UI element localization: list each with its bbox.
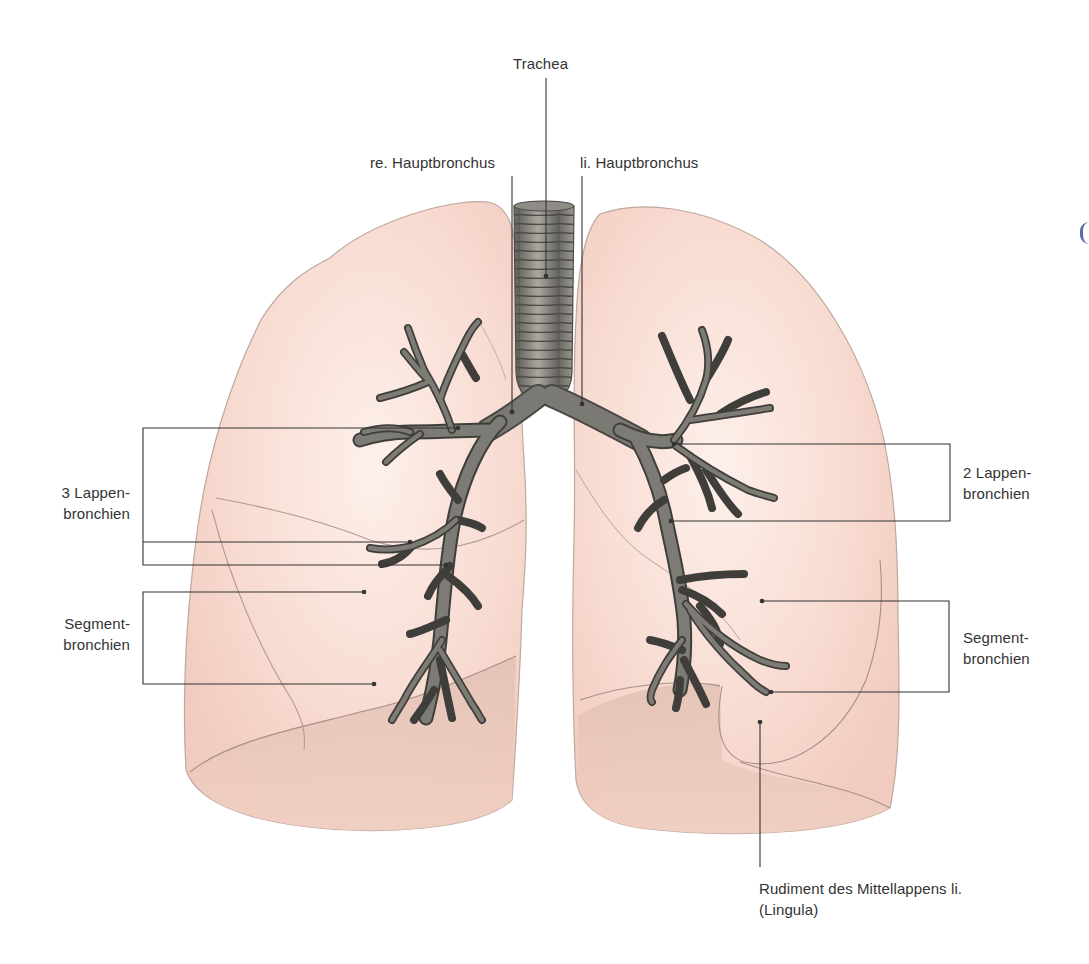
label-lingula-line2: (Lingula) <box>759 899 962 920</box>
label-right-lobar-bronchi-line1: 3 Lappen- <box>50 482 130 503</box>
label-right-main-bronchus: re. Hauptbronchus <box>370 152 495 173</box>
label-left-segmental-bronchi: Segment- bronchien <box>963 627 1030 669</box>
label-right-segmental-bronchi: Segment- bronchien <box>50 613 130 655</box>
label-left-lobar-bronchi: 2 Lappen- bronchien <box>963 462 1031 504</box>
label-left-segmental-bronchi-line1: Segment- <box>963 627 1030 648</box>
label-right-segmental-bronchi-line2: bronchien <box>50 634 130 655</box>
label-right-segmental-bronchi-line1: Segment- <box>50 613 130 634</box>
label-left-lobar-bronchi-line2: bronchien <box>963 483 1031 504</box>
label-left-main-bronchus: li. Hauptbronchus <box>580 152 698 173</box>
label-lingula: Rudiment des Mittellappens li. (Lingula) <box>759 878 962 920</box>
page-edge-marker <box>1080 222 1089 244</box>
trachea <box>514 201 574 400</box>
label-right-lobar-bronchi-line2: bronchien <box>50 503 130 524</box>
left-lung <box>573 207 899 834</box>
label-left-lobar-bronchi-line1: 2 Lappen- <box>963 462 1031 483</box>
label-left-segmental-bronchi-line2: bronchien <box>963 648 1030 669</box>
label-trachea: Trachea <box>513 53 568 74</box>
label-lingula-line1: Rudiment des Mittellappens li. <box>759 878 962 899</box>
right-lung <box>184 202 526 831</box>
label-right-lobar-bronchi: 3 Lappen- bronchien <box>50 482 130 524</box>
